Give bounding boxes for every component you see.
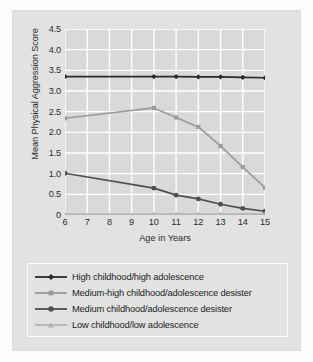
data-point-marker: [218, 144, 222, 148]
legend-item-label: High childhood/high adolescence: [72, 272, 204, 282]
x-axis-tick-label: 9: [121, 217, 143, 227]
data-point-marker: [49, 291, 54, 296]
data-point-marker: [218, 74, 223, 79]
data-point-marker: [240, 206, 245, 211]
data-point-marker: [196, 125, 200, 129]
data-point-marker: [152, 106, 156, 110]
series-3: [65, 211, 265, 215]
x-axis-tick-label: 8: [98, 217, 120, 227]
data-point-marker: [65, 74, 68, 79]
data-point-marker: [151, 74, 156, 79]
x-axis-tick-labels: 6789101112131415: [65, 217, 265, 231]
gridlines: [65, 29, 265, 215]
chart-legend: High childhood/high adolescenceMedium-hi…: [27, 263, 288, 337]
plot-area: [65, 29, 265, 215]
data-point-marker: [151, 186, 156, 191]
plot-svg: [65, 29, 265, 215]
legend-item-label: Low childhood/low adolescence: [72, 320, 198, 330]
y-axis-tick-label: 3.0: [31, 86, 61, 96]
x-axis-tick-label: 7: [76, 217, 98, 227]
y-axis-tick-label: 4.0: [31, 45, 61, 55]
data-point-marker: [173, 74, 178, 79]
data-point-marker: [65, 171, 67, 176]
y-axis-tick-label: 3.5: [31, 65, 61, 75]
legend-marker-triangle-icon: [34, 318, 68, 332]
y-axis-tick-label: 4.5: [31, 24, 61, 34]
legend-marker-diamond-icon: [34, 270, 68, 284]
data-point-marker: [196, 196, 201, 201]
x-axis-tick-label: 10: [143, 217, 165, 227]
series-2: [65, 171, 265, 214]
x-axis-tick-label: 11: [165, 217, 187, 227]
x-axis-tick-label: 13: [210, 217, 232, 227]
legend-marker-square-icon: [34, 286, 68, 300]
data-point-marker: [174, 115, 178, 119]
data-point-marker: [48, 274, 54, 280]
legend-item[interactable]: Medium childhood/adolescence desister: [34, 301, 287, 317]
data-point-marker: [262, 75, 265, 80]
data-point-marker: [263, 186, 265, 190]
data-point-marker: [48, 306, 54, 312]
figure-root: Mean Physical Aggression Score 00.51.01.…: [0, 0, 313, 362]
y-axis-tick-label: 0.5: [31, 189, 61, 199]
x-axis-tick-label: 14: [232, 217, 254, 227]
x-axis-tick-label: 12: [187, 217, 209, 227]
legend-item[interactable]: High childhood/high adolescence: [34, 269, 287, 285]
series-1: [65, 106, 265, 190]
data-point-marker: [218, 202, 223, 207]
y-axis-tick-label: 1.5: [31, 148, 61, 158]
line-chart: Mean Physical Aggression Score 00.51.01.…: [13, 11, 302, 256]
x-axis-tick-label: 15: [254, 217, 276, 227]
legend-item-label: Medium-high childhood/adolescence desist…: [72, 288, 252, 298]
legend-item-label: Medium childhood/adolescence desister: [72, 304, 232, 314]
legend-item[interactable]: Low childhood/low adolescence: [34, 317, 287, 333]
series-line: [65, 108, 265, 188]
figure-panel: Mean Physical Aggression Score 00.51.01.…: [12, 10, 301, 351]
series-0: [65, 74, 265, 80]
series-line: [65, 173, 265, 211]
y-axis-tick-label: 1.0: [31, 169, 61, 179]
series-line: [65, 77, 265, 78]
data-point-marker: [196, 74, 201, 79]
x-axis-tick-label: 6: [54, 217, 76, 227]
y-axis-tick-label: 2.5: [31, 107, 61, 117]
data-point-marker: [240, 75, 245, 80]
y-axis-tick-labels: 00.51.01.52.02.53.03.54.04.5: [31, 29, 61, 215]
data-point-marker: [174, 193, 179, 198]
legend-item[interactable]: Medium-high childhood/adolescence desist…: [34, 285, 287, 301]
x-axis-title: Age in Years: [65, 233, 265, 243]
data-point-marker: [241, 165, 245, 169]
y-axis-tick-label: 2.0: [31, 127, 61, 137]
legend-marker-circle-icon: [34, 302, 68, 316]
data-point-marker: [65, 116, 67, 120]
